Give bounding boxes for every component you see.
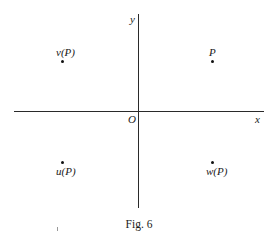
stray-mark	[57, 227, 58, 231]
x-axis-label: x	[255, 114, 260, 125]
point-p-dot	[211, 60, 215, 64]
point-wp-dot	[211, 161, 215, 165]
point-vp-label: v(P)	[56, 47, 75, 58]
y-axis	[138, 14, 139, 208]
origin-label: O	[128, 114, 136, 125]
point-wp-label: w(P)	[206, 166, 227, 177]
point-p-label: P	[209, 47, 216, 58]
point-up-dot	[61, 161, 65, 165]
figure-caption: Fig. 6	[0, 218, 278, 230]
y-axis-label: y	[130, 14, 135, 25]
point-vp-dot	[61, 60, 65, 64]
point-up-label: u(P)	[56, 166, 76, 177]
